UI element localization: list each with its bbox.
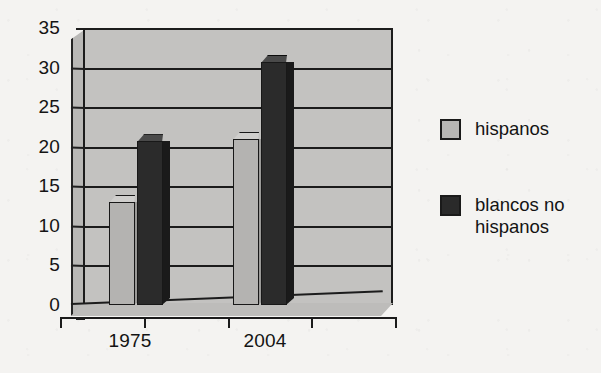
- legend-swatch-icon: [440, 195, 461, 216]
- x-axis-tick-mark: [395, 317, 397, 328]
- bar-front-face: [137, 141, 163, 305]
- y-axis-tick-label: 5: [16, 255, 60, 274]
- bar-front-face: [109, 202, 135, 305]
- bar-hispanos-1975: [109, 202, 135, 305]
- bar-side-face: [286, 62, 294, 305]
- legend-item-hispanos[interactable]: hispanos: [440, 118, 549, 140]
- bar-hispanos-2004: [233, 139, 259, 305]
- gridline: [85, 107, 391, 109]
- y-axis: 35302520151050: [14, 0, 60, 373]
- legend-item-label: hispanos: [475, 118, 549, 140]
- bar-front-face: [233, 139, 259, 305]
- y-axis-tick-label: 20: [16, 137, 60, 156]
- gridline-depth-edge: [71, 67, 85, 70]
- y-axis-tick-label: 25: [16, 97, 60, 116]
- x-axis-tick-mark: [144, 317, 146, 328]
- bar-front-face: [261, 62, 287, 305]
- bar-chart: 35302520151050 19752004 hispanosblancos …: [0, 0, 601, 373]
- legend-item-label: blancos no hispanos: [475, 194, 590, 238]
- bar-blancos-no-hispanos-1975: [137, 141, 163, 305]
- x-axis-tick-mark: [311, 317, 313, 328]
- y-axis-tick-label: 30: [16, 58, 60, 77]
- y-axis-tick-label: 10: [16, 216, 60, 235]
- x-axis-tick-mark: [228, 317, 230, 328]
- legend-swatch-icon: [440, 119, 461, 140]
- x-axis-tick-label: 2004: [225, 331, 305, 350]
- plot-area: [71, 28, 393, 316]
- bar-side-face: [162, 141, 170, 305]
- x-axis-tick-label: 1975: [90, 331, 170, 350]
- gridline-depth-edge: [71, 146, 85, 149]
- y-axis-tick-label: 35: [16, 18, 60, 37]
- x-axis-tick-mark: [60, 317, 62, 328]
- y-axis-tick-label: 0: [16, 295, 60, 314]
- y-axis-tick-label: 15: [16, 176, 60, 195]
- gridline-depth-edge: [71, 225, 85, 228]
- bar-blancos-no-hispanos-2004: [261, 62, 287, 305]
- gridline: [85, 68, 391, 70]
- legend-item-blancos-no-hispanos[interactable]: blancos no hispanos: [440, 194, 590, 238]
